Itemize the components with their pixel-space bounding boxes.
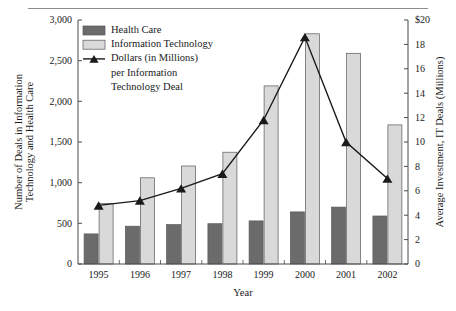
chart-figure: 05001,0001,5002,0002,5003,00002468101214… — [0, 0, 456, 311]
bar-health-care-1999 — [249, 221, 263, 264]
right-tick-label-6: 6 — [415, 185, 420, 196]
right-tick-label-0: 0 — [415, 258, 420, 269]
right-tick-label-20: $20 — [415, 14, 430, 25]
legend-label-1: Information Technology — [111, 38, 214, 49]
right-tick-label-14: 14 — [415, 88, 425, 99]
left-tick-label-2500: 2,500 — [50, 55, 73, 66]
y-axis-title-line-0: Number of Deals in Information — [13, 73, 24, 210]
left-tick-label-3000: 3,000 — [50, 14, 73, 25]
right-tick-label-2: 2 — [415, 234, 420, 245]
left-tick-label-1000: 1,000 — [50, 177, 73, 188]
chart-canvas: 05001,0001,5002,0002,5003,00002468101214… — [0, 0, 456, 311]
x-tick-label-2002: 2002 — [377, 269, 397, 280]
bar-information-technology-1998 — [223, 152, 237, 264]
bar-health-care-1996 — [125, 226, 139, 264]
x-tick-label-2000: 2000 — [295, 269, 315, 280]
legend-label-4: Technology Deal — [111, 81, 183, 92]
legend-swatch-information-technology — [83, 40, 105, 49]
bar-health-care-2001 — [332, 207, 346, 264]
x-tick-label-1995: 1995 — [89, 269, 109, 280]
right-tick-label-10: 10 — [415, 136, 425, 147]
x-tick-label-2001: 2001 — [336, 269, 356, 280]
left-tick-label-2000: 2,000 — [50, 96, 73, 107]
legend-swatch-health-care — [83, 26, 105, 35]
right-tick-label-16: 16 — [415, 63, 425, 74]
x-tick-label-1996: 1996 — [130, 269, 150, 280]
bar-information-technology-1996 — [140, 178, 154, 264]
bar-health-care-1997 — [167, 225, 181, 264]
right-tick-label-12: 12 — [415, 112, 425, 123]
bar-information-technology-2002 — [388, 125, 402, 264]
legend-label-2: Dollars (in Millions) — [111, 52, 198, 64]
bar-health-care-1995 — [84, 234, 98, 264]
bar-health-care-1998 — [208, 224, 222, 264]
right-tick-label-8: 8 — [415, 161, 420, 172]
bar-information-technology-1995 — [99, 203, 113, 264]
bar-information-technology-1997 — [182, 166, 196, 264]
x-tick-label-1998: 1998 — [212, 269, 232, 280]
x-axis-title: Year — [233, 287, 253, 298]
legend-label-0: Health Care — [111, 24, 162, 35]
x-tick-label-1997: 1997 — [171, 269, 191, 280]
bar-health-care-2000 — [290, 212, 304, 264]
left-tick-label-1500: 1,500 — [50, 136, 73, 147]
bar-information-technology-1999 — [264, 86, 278, 264]
right-tick-label-18: 18 — [415, 39, 425, 50]
y-axis-title-line-1: Technology and Health Care — [24, 82, 35, 203]
left-tick-label-0: 0 — [67, 258, 72, 269]
y2-axis-title: Average Investment, IT Deals (Millions) — [434, 56, 446, 227]
bar-information-technology-2001 — [347, 53, 361, 264]
legend-label-3: per Information — [111, 67, 178, 78]
legend-group: Health CareInformation TechnologyDollars… — [83, 24, 214, 92]
right-tick-label-4: 4 — [415, 210, 420, 221]
x-tick-label-1999: 1999 — [254, 269, 274, 280]
bar-health-care-2002 — [373, 216, 387, 264]
left-tick-label-500: 500 — [57, 218, 72, 229]
